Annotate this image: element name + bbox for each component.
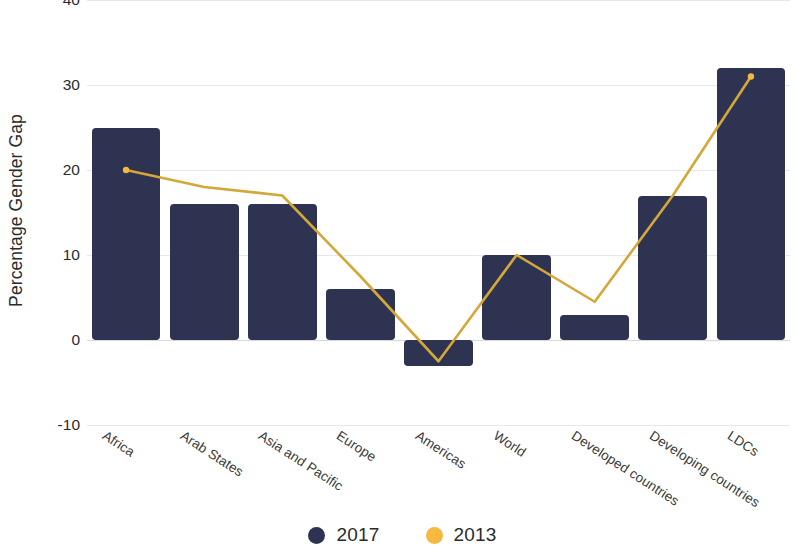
legend-label: 2017 (336, 524, 379, 546)
y-axis-tick-30: 30 (34, 76, 80, 94)
line-series-2013 (87, 0, 790, 425)
y-axis-title: Percentage Gender Gap (0, 0, 32, 420)
y-axis-tick-0: 0 (34, 331, 80, 349)
legend-item[interactable]: 2017 (308, 524, 379, 546)
chart-legend: 20172013 (0, 524, 805, 546)
y-axis-tick-40: 40 (34, 0, 80, 9)
line-marker (123, 167, 129, 173)
legend-circle-icon (426, 527, 443, 544)
line-series-svg (87, 0, 790, 425)
gender-gap-chart: Percentage Gender Gap 403020100-10 Afric… (0, 0, 805, 558)
line-path-2013 (126, 77, 751, 362)
x-axis-tick-label: Asia and Pacific (256, 428, 346, 494)
y-axis-tick-20: 20 (34, 161, 80, 179)
x-axis-tick-label: World (490, 428, 528, 460)
y-axis-tick-neg10: -10 (34, 416, 80, 434)
x-axis-tick-label: Africa (100, 428, 138, 460)
y-axis-title-text: Percentage Gender Gap (6, 114, 27, 307)
legend-circle-icon (308, 527, 325, 544)
gridline-neg10 (87, 425, 790, 426)
line-marker (748, 73, 754, 79)
y-axis-tick-10: 10 (34, 246, 80, 264)
x-axis-tick-label: Arab States (178, 428, 246, 480)
plot-area (87, 0, 790, 425)
x-axis-tick-label: LDCs (725, 428, 762, 459)
legend-label: 2013 (454, 524, 497, 546)
x-axis-tick-label: Americas (412, 428, 468, 472)
x-axis-tick-label: Europe (334, 428, 379, 465)
legend-item[interactable]: 2013 (426, 524, 497, 546)
